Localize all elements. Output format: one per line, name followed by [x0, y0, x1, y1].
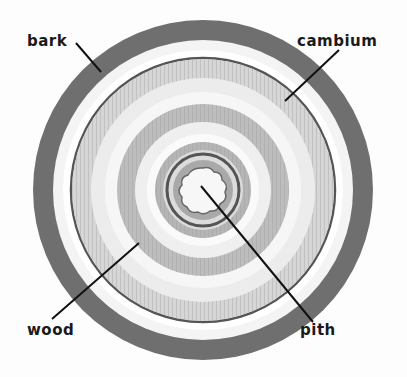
bark-label: bark: [27, 32, 67, 50]
wood-label: wood: [27, 321, 74, 339]
cambium-label: cambium: [297, 32, 377, 50]
pith-label: pith: [300, 321, 336, 339]
tree-cross-section-diagram: bark cambium wood pith: [0, 0, 407, 377]
